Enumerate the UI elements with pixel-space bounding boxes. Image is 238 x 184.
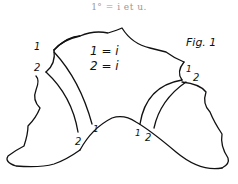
left-upper-arc [46, 50, 54, 72]
label-top-right-2: 2 [193, 72, 199, 83]
left-outer-boundary [7, 76, 80, 167]
label-bottom-right-1: 1 [135, 128, 141, 138]
right-upper-arc [179, 62, 184, 80]
label-bottom-right-2: 2 [145, 132, 151, 143]
label-bottom-left-2: 2 [75, 136, 81, 147]
legend-line-1: 1 = i [90, 44, 119, 58]
right-outer-boundary [182, 82, 228, 168]
top-boundary [54, 28, 184, 62]
legend-line-2: 2 = i [90, 59, 119, 73]
right-inner-arc-1 [140, 80, 182, 124]
label-top-left-2: 2 [34, 62, 40, 73]
label-top-right-1: 1 [186, 64, 192, 74]
left-inner-arc-2 [46, 72, 78, 132]
fig1-diagram: 1 2 1 2 2 1 1 2 1 = i 2 = i Fig. 1 [0, 0, 238, 184]
top-left-cusp [54, 36, 80, 50]
label-bottom-left-1: 1 [93, 124, 99, 134]
label-top-left-1: 1 [34, 41, 40, 52]
figure-title: Fig. 1 [186, 36, 216, 49]
